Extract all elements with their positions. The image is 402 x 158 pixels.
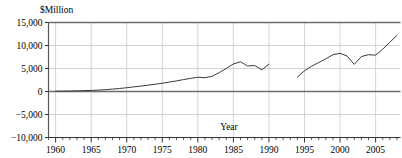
x-tick-label: 1995 [295,145,314,155]
x-axis-title: Year [220,122,238,132]
y-axis-title: $Million [40,5,74,15]
y-tick-label: 10,000 [16,41,42,51]
x-tick-label: 1980 [188,145,207,155]
x-tick-label: 1965 [82,145,101,155]
y-tick-label: 15,000 [16,18,42,28]
chart-background [0,0,402,158]
x-tick-label: 1975 [153,145,172,155]
y-tick-label: 5,000 [21,64,43,74]
x-tick-label: 1970 [117,145,136,155]
x-tick-label: 1990 [259,145,278,155]
x-tick-label: 1985 [224,145,243,155]
x-tick-label: 2005 [366,145,385,155]
y-tick-label: −5,000 [16,110,43,120]
y-tick-label: −10,000 [11,133,43,143]
y-tick-label: 0 [38,87,43,97]
line-chart: −10,000−5,00005,00010,00015,000 19601965… [0,0,402,158]
x-tick-label: 1960 [46,145,65,155]
chart-container: −10,000−5,00005,00010,00015,000 19601965… [0,0,402,158]
x-tick-label: 2000 [331,145,350,155]
